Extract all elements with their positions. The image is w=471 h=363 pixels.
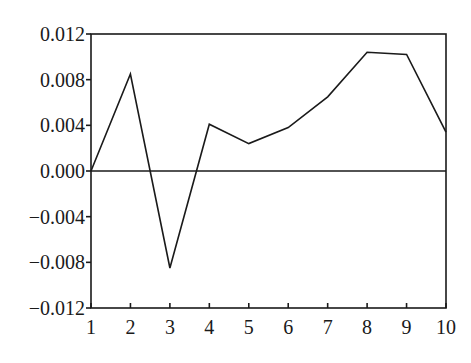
y-tick-label: −0.008 [29,251,85,273]
x-tick-label: 2 [125,316,135,338]
line-chart: 0.0120.0080.0040.000−0.004−0.008−0.012 1… [0,0,471,363]
x-axis-tick-labels: 12345678910 [86,316,456,338]
x-tick-label: 3 [165,316,175,338]
y-tick-label: −0.004 [29,206,85,228]
y-tick-label: −0.012 [29,297,85,319]
x-tick-label: 4 [204,316,214,338]
y-tick-label: 0.000 [40,160,85,182]
x-tick-label: 1 [86,316,96,338]
x-tick-label: 6 [283,316,293,338]
x-tick-label: 7 [323,316,333,338]
x-tick-label: 5 [244,316,254,338]
x-tick-label: 8 [362,316,372,338]
x-tick-label: 10 [436,316,456,338]
y-tick-label: 0.012 [40,23,85,45]
y-axis-tick-labels: 0.0120.0080.0040.000−0.004−0.008−0.012 [29,23,85,319]
y-tick-label: 0.004 [40,114,85,136]
y-tick-label: 0.008 [40,69,85,91]
x-tick-label: 9 [402,316,412,338]
data-series-line [91,52,446,268]
